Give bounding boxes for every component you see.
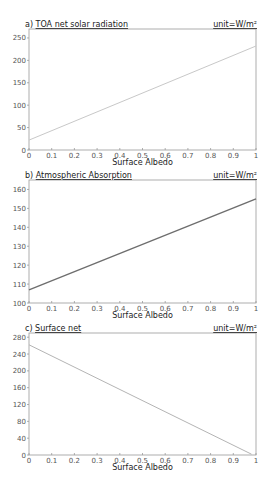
x-tick-label: 0.9 xyxy=(228,152,239,160)
y-tick-label: 240 xyxy=(13,351,26,359)
panel-title-text: TOA net solar radiation xyxy=(35,20,128,29)
unit-label: unit=W/m² xyxy=(213,20,257,29)
x-tick-label: 0.8 xyxy=(205,152,216,160)
y-axis: 050100150200250 xyxy=(13,34,29,154)
y-tick-label: 120 xyxy=(13,401,26,409)
y-tick-label: 130 xyxy=(13,243,26,251)
plot-frame xyxy=(29,333,256,455)
y-tick-label: 200 xyxy=(13,57,26,65)
data-line xyxy=(29,199,256,290)
panel-letter: a) xyxy=(25,20,36,29)
plot-frame xyxy=(29,180,256,303)
panel-letter: b) xyxy=(25,171,36,180)
unit-label: unit=W/m² xyxy=(213,324,257,333)
panel-title: b) Atmospheric Absorption xyxy=(25,171,132,180)
y-tick-label: 150 xyxy=(13,79,26,87)
x-tick-label: 0.2 xyxy=(69,305,80,313)
y-tick-label: 250 xyxy=(13,34,26,42)
x-tick-label: 1 xyxy=(254,305,258,313)
y-tick-label: 160 xyxy=(13,384,26,392)
y-tick-label: 150 xyxy=(13,205,26,213)
y-tick-label: 120 xyxy=(13,262,26,270)
x-tick-label: 0 xyxy=(27,152,31,160)
x-tick-label: 0 xyxy=(27,305,31,313)
x-tick-label: 0.3 xyxy=(92,305,103,313)
y-axis: 04080120160200240280 xyxy=(13,334,29,460)
x-tick-label: 0.8 xyxy=(205,457,216,465)
panel-title: a) TOA net solar radiation xyxy=(25,20,128,29)
x-tick-label: 0.1 xyxy=(46,152,57,160)
x-tick-label: 0.7 xyxy=(182,152,193,160)
x-tick-label: 0.9 xyxy=(228,305,239,313)
y-tick-label: 100 xyxy=(13,300,26,308)
panel-title-text: Atmospheric Absorption xyxy=(36,171,132,180)
x-tick-label: 0.3 xyxy=(92,152,103,160)
panel-title-text: Surface net xyxy=(35,324,81,333)
y-tick-label: 160 xyxy=(13,186,26,194)
x-tick-label: 0.7 xyxy=(182,305,193,313)
data-line xyxy=(29,46,256,140)
y-tick-label: 40 xyxy=(17,435,26,443)
y-tick-label: 80 xyxy=(17,418,26,426)
chart-panel-c: c) Surface netunit=W/m²04080120160200240… xyxy=(13,324,259,472)
y-axis: 100110120130140150160 xyxy=(13,186,29,308)
y-tick-label: 140 xyxy=(13,224,26,232)
x-tick-label: 0.7 xyxy=(182,457,193,465)
x-axis-title: Surface Albedo xyxy=(112,463,173,472)
x-tick-label: 0 xyxy=(27,457,31,465)
y-tick-label: 280 xyxy=(13,334,26,342)
x-tick-label: 0.1 xyxy=(46,457,57,465)
y-tick-label: 0 xyxy=(22,452,26,460)
x-tick-label: 0.1 xyxy=(46,305,57,313)
plot-frame xyxy=(29,29,256,150)
x-tick-label: 1 xyxy=(254,457,258,465)
x-tick-label: 1 xyxy=(254,152,258,160)
x-tick-label: 0.2 xyxy=(69,457,80,465)
panel-letter: c) xyxy=(25,324,35,333)
data-line xyxy=(29,345,252,454)
unit-label: unit=W/m² xyxy=(213,171,257,180)
figure-canvas: a) TOA net solar radiationunit=W/m²05010… xyxy=(0,0,269,489)
x-tick-label: 0.8 xyxy=(205,305,216,313)
chart-panel-b: b) Atmospheric Absorptionunit=W/m²100110… xyxy=(13,171,259,320)
chart-panel-a: a) TOA net solar radiationunit=W/m²05010… xyxy=(13,20,259,167)
panel-title: c) Surface net xyxy=(25,324,81,333)
y-tick-label: 110 xyxy=(13,281,26,289)
y-tick-label: 200 xyxy=(13,367,26,375)
y-tick-label: 50 xyxy=(17,124,26,132)
x-axis-title: Surface Albedo xyxy=(112,158,173,167)
y-tick-label: 0 xyxy=(22,147,26,155)
y-tick-label: 100 xyxy=(13,102,26,110)
x-tick-label: 0.2 xyxy=(69,152,80,160)
x-tick-label: 0.9 xyxy=(228,457,239,465)
x-axis-title: Surface Albedo xyxy=(112,311,173,320)
x-tick-label: 0.3 xyxy=(92,457,103,465)
